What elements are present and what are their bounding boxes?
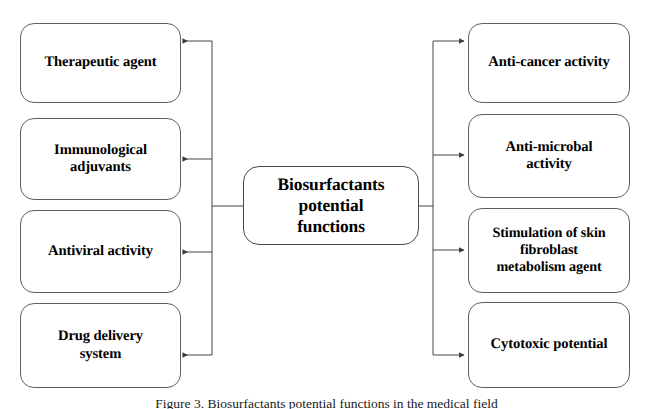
node-label-line: Cytotoxic potential	[491, 336, 608, 352]
node-label-line: potential	[299, 195, 364, 215]
node-label: Biosurfactants potential functions	[272, 174, 391, 238]
node-label-line: activity	[526, 156, 571, 172]
node-label-line: Therapeutic agent	[44, 54, 156, 70]
node-stimulation-skin-fibroblast[interactable]: Stimulation of skin fibroblast metabolis…	[468, 208, 630, 293]
node-anti-cancer-activity[interactable]: Anti-cancer activity	[468, 23, 630, 103]
node-label-line: metabolism agent	[496, 259, 601, 275]
node-label: Anti-cancer activity	[482, 54, 615, 71]
node-label: Therapeutic agent	[38, 54, 162, 71]
node-label-line: system	[80, 346, 122, 362]
node-drug-delivery-system[interactable]: Drug delivery system	[20, 303, 181, 388]
node-label-line: Drug delivery	[58, 328, 143, 344]
node-therapeutic-agent[interactable]: Therapeutic agent	[20, 23, 181, 103]
node-label: Anti-microbal activity	[500, 139, 599, 173]
node-label: Cytotoxic potential	[485, 336, 614, 353]
node-label-line: Anti-microbal	[506, 139, 593, 155]
node-label-line: Immunological	[54, 142, 147, 158]
node-anti-microbal-activity[interactable]: Anti-microbal activity	[468, 114, 630, 198]
node-label-line: Antiviral activity	[48, 243, 153, 259]
figure-caption: Figure 3. Biosurfactants potential funct…	[0, 396, 653, 409]
node-label: Stimulation of skin fibroblast metabolis…	[486, 225, 611, 275]
node-label-line: Anti-cancer activity	[488, 54, 609, 70]
node-immunological-adjuvants[interactable]: Immunological adjuvants	[20, 118, 181, 200]
node-label-line: fibroblast	[520, 242, 578, 258]
node-label: Antiviral activity	[42, 243, 159, 260]
node-label-line: adjuvants	[70, 159, 131, 175]
node-cytotoxic-potential[interactable]: Cytotoxic potential	[468, 302, 630, 388]
node-label-line: Biosurfactants	[278, 174, 385, 194]
node-label: Immunological adjuvants	[48, 142, 153, 176]
node-biosurfactants-potential-functions[interactable]: Biosurfactants potential functions	[243, 166, 419, 245]
node-label-line: functions	[297, 216, 365, 236]
diagram-figure: Therapeutic agent Immunological adjuvant…	[0, 0, 653, 409]
node-antiviral-activity[interactable]: Antiviral activity	[20, 210, 181, 293]
node-label: Drug delivery system	[52, 328, 149, 362]
node-label-line: Stimulation of skin	[492, 225, 605, 241]
